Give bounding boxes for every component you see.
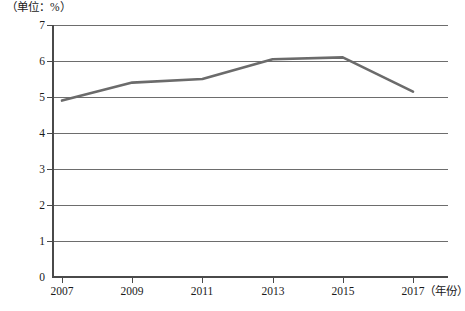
x-tick-2015 [343, 277, 344, 283]
line-chart-figure: （单位：%） 7 6 5 4 3 2 1 0 2007 2009 [0, 0, 465, 311]
x-axis-label-2013: 2013 [243, 285, 303, 298]
series-line [62, 57, 413, 100]
x-tick-2007 [62, 277, 63, 283]
x-axis-ticks: 2007 2009 2011 2013 2015 2017 [0, 277, 465, 289]
x-axis-label-2009: 2009 [102, 285, 162, 298]
x-tick-2013 [273, 277, 274, 283]
x-tick-2011 [202, 277, 203, 283]
x-axis-label-2015: 2015 [313, 285, 373, 298]
x-axis-unit-label: （年份） [424, 285, 465, 298]
x-tick-2009 [132, 277, 133, 283]
x-axis-label-2007: 2007 [32, 285, 92, 298]
x-tick-2017 [413, 277, 414, 283]
series-line-group [0, 0, 465, 311]
x-axis-label-2011: 2011 [172, 285, 232, 298]
